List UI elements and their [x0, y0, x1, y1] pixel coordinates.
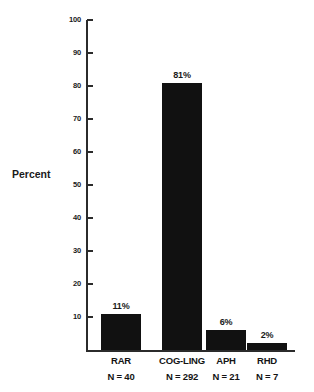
- y-axis-tick: [87, 151, 93, 153]
- y-axis-tick: [87, 250, 93, 252]
- category-label: RAR: [91, 355, 151, 366]
- bar-chart-figure: Percent 100908070605040302010 11%81%6%2%…: [0, 0, 314, 392]
- bar: [206, 330, 246, 350]
- y-axis-tick-label: 70: [55, 114, 81, 123]
- bar: [247, 343, 287, 350]
- category-label: RHD: [237, 355, 297, 366]
- y-axis-line: [86, 20, 88, 352]
- y-axis-tick-label: 40: [55, 213, 81, 222]
- group-size-label: N = 40: [91, 371, 151, 382]
- group-size-label: N = 7: [237, 371, 297, 382]
- y-axis-tick-label: 50: [55, 180, 81, 189]
- bar: [101, 314, 141, 350]
- y-axis-tick: [87, 118, 93, 120]
- bar-value-label: 6%: [201, 317, 251, 327]
- y-axis-title: Percent: [12, 168, 51, 180]
- y-axis-tick: [87, 85, 93, 87]
- y-axis-tick: [87, 283, 93, 285]
- y-axis-tick-label: 80: [55, 81, 81, 90]
- bar-value-label: 81%: [157, 70, 207, 80]
- y-axis-tick: [87, 184, 93, 186]
- bar-value-label: 11%: [96, 301, 146, 311]
- bar: [162, 83, 202, 350]
- y-axis-tick-label: 100: [55, 15, 81, 24]
- y-axis-tick-label: 30: [55, 246, 81, 255]
- y-axis-tick-label: 90: [55, 48, 81, 57]
- x-axis-line: [86, 350, 295, 352]
- y-axis-tick-label: 60: [55, 147, 81, 156]
- bar-value-label: 2%: [242, 330, 292, 340]
- y-axis-tick-label: 10: [55, 312, 81, 321]
- y-axis-tick: [87, 52, 93, 54]
- y-axis-tick: [87, 217, 93, 219]
- y-axis-tick-label: 20: [55, 279, 81, 288]
- y-axis-tick: [87, 316, 93, 318]
- y-axis-tick: [87, 19, 93, 21]
